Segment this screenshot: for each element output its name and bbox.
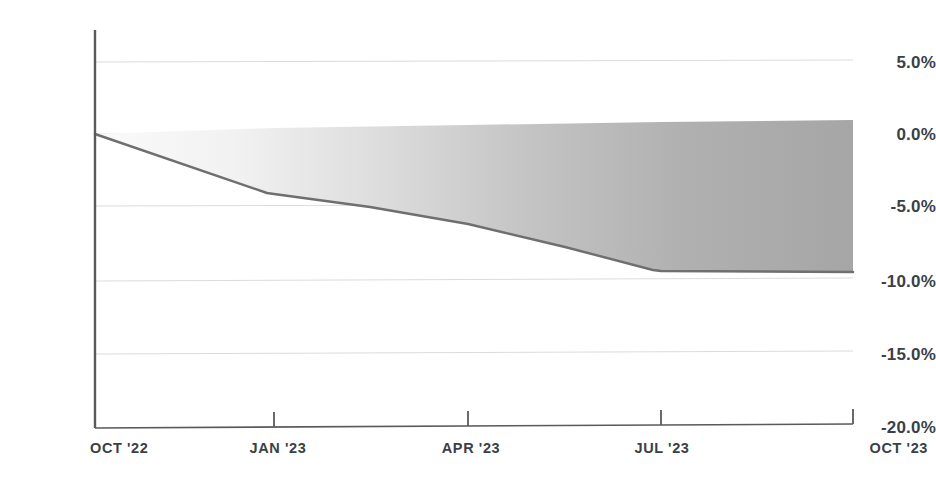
y-tick-label-5: 5.0% [850, 54, 936, 71]
gridline-5 [95, 60, 853, 62]
y-tick-label-neg10: -10.0% [850, 273, 936, 290]
chart-container: 5.0% 0.0% -5.0% -10.0% -15.0% -20.0% OCT… [0, 0, 936, 494]
y-tick-label-neg15: -15.0% [850, 346, 936, 363]
y-tick-label-0: 0.0% [850, 126, 936, 143]
area-chart-plot [0, 0, 936, 494]
area-fill [95, 120, 853, 272]
x-tick-label-oct22: OCT '22 [90, 440, 148, 456]
x-tick-label-oct23: OCT '23 [870, 440, 928, 456]
gridline-neg10 [95, 278, 853, 281]
y-tick-label-neg20: -20.0% [850, 419, 936, 436]
x-tick-label-apr23: APR '23 [442, 440, 500, 456]
x-tick-label-jan23: JAN '23 [250, 440, 307, 456]
x-axis-line [95, 424, 853, 428]
x-tick-label-jul23: JUL '23 [635, 440, 690, 456]
gridline-neg15 [95, 351, 853, 354]
y-tick-label-neg5: -5.0% [850, 198, 936, 215]
